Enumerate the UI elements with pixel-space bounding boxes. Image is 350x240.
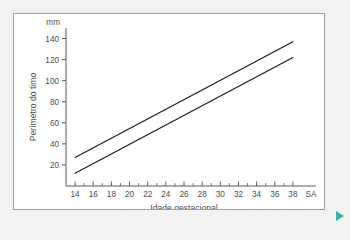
y-axis-title: Perímetro do timo [28,73,38,142]
x-tick-label: 16 [89,190,99,199]
x-tick-label: 26 [179,190,189,199]
thymus-perimeter-chart: mm20406080100120140141618202224262830323… [14,14,324,209]
x-tick-label: 22 [143,190,153,199]
chart-plot-area: mm20406080100120140141618202224262830323… [14,14,324,209]
x-tick-label: 18 [107,190,117,199]
play-arrow-icon[interactable] [336,211,344,221]
x-axis-unit-label: SA [305,190,316,199]
x-tick-label: 20 [125,190,135,199]
y-tick-label: 60 [50,119,60,128]
y-tick-label: 120 [45,56,59,65]
screenshot-root: mm20406080100120140141618202224262830323… [0,0,350,240]
y-axis-unit-label: mm [46,18,60,27]
y-tick-label: 40 [50,140,60,149]
x-tick-label: 32 [234,190,244,199]
x-tick-label: 28 [198,190,208,199]
chart-card: mm20406080100120140141618202224262830323… [13,13,325,210]
x-tick-label: 38 [288,190,298,199]
y-tick-label: 140 [45,35,59,44]
x-tick-label: 24 [161,190,171,199]
y-tick-label: 100 [45,77,59,86]
y-tick-label: 20 [50,161,60,170]
x-axis-title: Idade gestacional [150,203,217,209]
x-tick-label: 36 [270,190,280,199]
x-tick-label: 34 [252,190,262,199]
y-tick-label: 80 [50,98,60,107]
x-tick-label: 30 [216,190,226,199]
curve-lower-reference-curve [75,57,293,173]
x-tick-label: 14 [71,190,81,199]
curve-upper-reference-curve [75,42,293,158]
